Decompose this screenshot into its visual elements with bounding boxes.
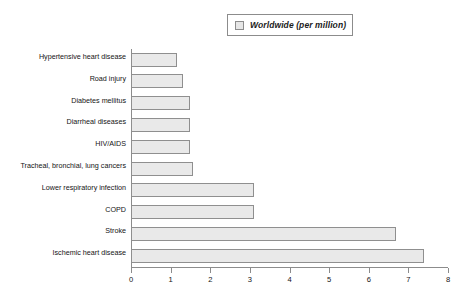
bar-row: Diarrheal diseases xyxy=(131,114,448,136)
category-label: Hypertensive heart disease xyxy=(39,51,126,62)
bar xyxy=(131,74,183,88)
x-axis-tick xyxy=(131,268,132,273)
bar xyxy=(131,227,396,241)
x-axis-tick xyxy=(329,268,330,273)
x-axis-tick-label: 2 xyxy=(208,275,212,284)
bar-row: Road injury xyxy=(131,71,448,93)
x-axis-tick-label: 6 xyxy=(367,275,371,284)
chart-legend: Worldwide (per million) xyxy=(227,14,353,36)
x-axis-tick-label: 4 xyxy=(287,275,291,284)
bar xyxy=(131,53,177,67)
x-axis-tick xyxy=(408,268,409,273)
category-label: Ischemic heart disease xyxy=(52,247,126,258)
bar xyxy=(131,162,193,176)
bar-row: HIV/AIDS xyxy=(131,136,448,158)
x-axis-tick-label: 3 xyxy=(248,275,252,284)
category-label: Diabetes mellitus xyxy=(71,95,126,106)
legend-label: Worldwide (per million) xyxy=(250,20,346,30)
category-label: Diarrheal diseases xyxy=(66,116,126,127)
bar xyxy=(131,183,254,197)
x-axis-tick-label: 5 xyxy=(327,275,331,284)
bar-row: Lower respiratory infection xyxy=(131,180,448,202)
x-axis-tick xyxy=(210,268,211,273)
bar xyxy=(131,140,190,154)
category-label: Stroke xyxy=(105,225,126,236)
bar-chart: Worldwide (per million) Hypertensive hea… xyxy=(0,0,463,301)
category-label: Road injury xyxy=(90,73,126,84)
x-axis-tick-label: 1 xyxy=(169,275,173,284)
x-axis-tick xyxy=(369,268,370,273)
x-axis-tick xyxy=(171,268,172,273)
bar-row: Ischemic heart disease xyxy=(131,245,448,267)
bar-row: COPD xyxy=(131,202,448,224)
category-label: Lower respiratory infection xyxy=(42,182,126,193)
bar xyxy=(131,118,190,132)
bar xyxy=(131,205,254,219)
x-axis-tick xyxy=(290,268,291,273)
bar-row: Tracheal, bronchial, lung cancers xyxy=(131,158,448,180)
legend-swatch-icon xyxy=(235,21,244,30)
category-label: COPD xyxy=(105,204,126,215)
bar-row: Stroke xyxy=(131,223,448,245)
category-label: HIV/AIDS xyxy=(95,138,126,149)
bar xyxy=(131,249,424,263)
bar xyxy=(131,96,190,110)
x-axis-tick-label: 7 xyxy=(406,275,410,284)
x-axis-tick-label: 0 xyxy=(129,275,133,284)
x-axis-tick-label: 8 xyxy=(446,275,450,284)
bar-row: Diabetes mellitus xyxy=(131,93,448,115)
x-axis-tick xyxy=(448,268,449,273)
x-axis-tick xyxy=(250,268,251,273)
bar-row: Hypertensive heart disease xyxy=(131,49,448,71)
plot-area: Hypertensive heart diseaseRoad injuryDia… xyxy=(131,49,448,267)
category-label: Tracheal, bronchial, lung cancers xyxy=(20,160,126,171)
